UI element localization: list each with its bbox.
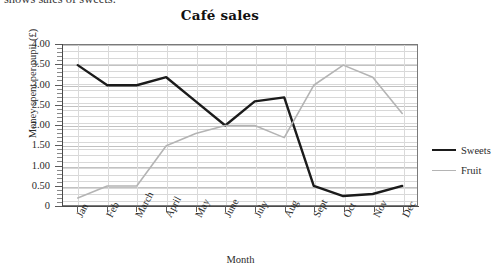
y-tick-minor: [57, 141, 62, 142]
y-tick-major: [55, 206, 62, 207]
y-tick-minor: [57, 194, 62, 195]
series-line-sweets: [78, 65, 402, 196]
plot-inner: [63, 45, 417, 205]
legend-swatch-icon: [432, 170, 456, 171]
y-tick-major: [55, 145, 62, 146]
y-tick-minor: [57, 101, 62, 102]
y-tick-label: 3.50: [0, 59, 50, 70]
y-tick-label: 3.00: [0, 80, 50, 91]
y-tick-major: [55, 105, 62, 106]
legend-label: Sweets: [461, 145, 491, 156]
y-tick-minor: [57, 48, 62, 49]
y-tick-minor: [57, 174, 62, 175]
y-axis-line: [62, 44, 63, 207]
legend-item-sweets[interactable]: Sweets: [432, 140, 502, 160]
y-tick-major: [55, 85, 62, 86]
y-axis-title: Money spent per pupil (£): [27, 4, 38, 164]
series-lines: [63, 45, 417, 206]
y-tick-label: 1.00: [0, 161, 50, 172]
y-tick-minor: [57, 121, 62, 122]
y-tick-label: 2.50: [0, 100, 50, 111]
y-tick-minor: [57, 198, 62, 199]
y-tick-minor: [57, 178, 62, 179]
y-tick-minor: [57, 76, 62, 77]
plot-area: [62, 44, 418, 206]
x-axis-title: Month: [62, 254, 419, 265]
y-tick-minor: [57, 129, 62, 130]
y-tick-minor: [57, 113, 62, 114]
y-tick-major: [55, 166, 62, 167]
legend-item-fruit[interactable]: Fruit: [432, 160, 502, 180]
y-tick-label: 0: [0, 201, 50, 212]
y-tick-minor: [57, 190, 62, 191]
y-tick-minor: [57, 202, 62, 203]
y-tick-minor: [57, 133, 62, 134]
y-tick-minor: [57, 149, 62, 150]
y-tick-minor: [57, 161, 62, 162]
y-tick-label: 4.00: [0, 39, 50, 50]
y-tick-label: 1.50: [0, 140, 50, 151]
y-tick-major: [55, 64, 62, 65]
y-tick-minor: [57, 80, 62, 81]
legend-swatch-icon: [432, 149, 456, 151]
y-tick-major: [55, 186, 62, 187]
y-tick-major: [55, 125, 62, 126]
y-tick-minor: [57, 109, 62, 110]
y-tick-label: 0.50: [0, 181, 50, 192]
chart-legend: SweetsFruit: [432, 140, 502, 180]
y-tick-label: 2.00: [0, 120, 50, 131]
y-tick-minor: [57, 89, 62, 90]
y-tick-minor: [57, 60, 62, 61]
y-tick-minor: [57, 170, 62, 171]
y-tick-minor: [57, 157, 62, 158]
y-tick-minor: [57, 72, 62, 73]
legend-label: Fruit: [461, 165, 481, 176]
y-tick-minor: [57, 93, 62, 94]
y-tick-minor: [57, 182, 62, 183]
chart-title: Café sales: [0, 7, 440, 23]
y-tick-minor: [57, 117, 62, 118]
y-tick-minor: [57, 52, 62, 53]
chart-page: shows sales of sweets. Café sales 00.501…: [0, 0, 502, 273]
y-tick-minor: [57, 68, 62, 69]
caption-text: shows sales of sweets.: [4, 0, 116, 7]
y-tick-minor: [57, 153, 62, 154]
y-tick-minor: [57, 137, 62, 138]
y-tick-minor: [57, 56, 62, 57]
y-tick-major: [55, 44, 62, 45]
y-tick-minor: [57, 97, 62, 98]
